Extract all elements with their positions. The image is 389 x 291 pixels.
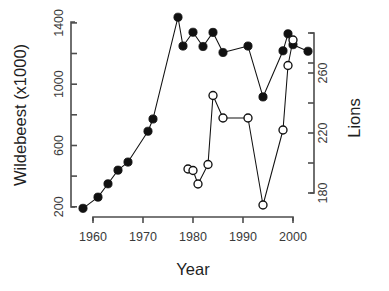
- xtick-label-1980: 1980: [179, 230, 207, 244]
- left-axis: [71, 22, 77, 207]
- ytick-label-200: 200: [52, 196, 66, 217]
- y2tick-label-220: 220: [316, 123, 330, 144]
- ytick-label-1400: 1400: [52, 9, 66, 37]
- x-axis-tick-labels: 1960 1970 1980 1990 2000: [79, 230, 307, 244]
- data-point-wildebeest: [219, 48, 227, 56]
- left-axis-tick-labels: 1400 1000 600 200: [52, 9, 66, 217]
- y2tick-label-260: 260: [316, 63, 330, 84]
- data-point-wildebeest: [304, 47, 312, 55]
- data-point-wildebeest: [279, 47, 287, 55]
- data-point-lions: [189, 167, 197, 175]
- right-axis: [308, 33, 314, 193]
- data-point-wildebeest: [104, 180, 112, 188]
- right-axis-tick-labels: 260 220 180: [316, 63, 330, 204]
- data-point-lions: [194, 180, 202, 188]
- data-point-wildebeest: [209, 28, 217, 36]
- x-axis: [93, 217, 293, 223]
- chart-figure: 1400 1000 600 200 Wildebeest (x1000) 260…: [0, 0, 389, 291]
- ytick-label-600: 600: [52, 135, 66, 156]
- data-point-wildebeest: [199, 42, 207, 50]
- ytick-label-1000: 1000: [52, 70, 66, 98]
- x-axis-title: Year: [176, 260, 210, 278]
- y2-axis-title: Lions: [345, 98, 363, 137]
- data-series-layer: [79, 13, 312, 212]
- xtick-label-2000: 2000: [279, 230, 307, 244]
- data-point-lions: [284, 62, 292, 70]
- data-point-wildebeest: [149, 115, 157, 123]
- population-chart: 1400 1000 600 200 Wildebeest (x1000) 260…: [0, 0, 389, 291]
- data-point-wildebeest: [144, 127, 152, 135]
- data-point-lions: [204, 161, 212, 169]
- data-point-wildebeest: [179, 42, 187, 50]
- data-point-wildebeest: [174, 13, 182, 21]
- xtick-label-1960: 1960: [79, 230, 107, 244]
- y-axis-title: Wildebeest (x1000): [11, 44, 29, 186]
- series-line-wildebeest: [83, 17, 308, 208]
- data-point-wildebeest: [244, 42, 252, 50]
- data-point-lions: [279, 126, 287, 134]
- data-point-wildebeest: [124, 158, 132, 166]
- xtick-label-1990: 1990: [229, 230, 257, 244]
- data-point-wildebeest: [259, 93, 267, 101]
- data-point-lions: [259, 201, 267, 209]
- data-point-lions: [244, 114, 252, 122]
- data-point-wildebeest: [94, 193, 102, 201]
- data-point-lions: [219, 114, 227, 122]
- y2tick-label-180: 180: [316, 183, 330, 204]
- xtick-label-1970: 1970: [129, 230, 157, 244]
- series-lions: [184, 36, 297, 209]
- data-point-wildebeest: [189, 28, 197, 36]
- data-point-lions: [289, 36, 297, 44]
- data-point-lions: [209, 92, 217, 100]
- data-point-wildebeest: [79, 204, 87, 212]
- data-point-wildebeest: [114, 166, 122, 174]
